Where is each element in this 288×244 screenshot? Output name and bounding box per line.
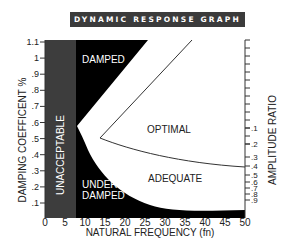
y2-axis-ticks: .1.2.3.4.5.6.7.8.9 <box>245 40 258 205</box>
y-tick-label: .3 <box>31 166 39 176</box>
y-axis-title: DAMPING COEFFICENT % <box>17 77 28 202</box>
y-tick-label: .7 <box>31 101 39 111</box>
y-tick-label: .6 <box>31 118 39 128</box>
label-damped: DAMPED <box>82 54 125 65</box>
dynamic-response-chart: .1.2.3.4.5.6.7.8.911.1 .1.2.3.4.5.6.7.8.… <box>0 0 288 244</box>
y-tick-label: 1 <box>34 53 39 63</box>
x-tick-label: 50 <box>239 217 251 228</box>
y2-tick-label: .1 <box>251 124 258 133</box>
y-tick-label: .8 <box>31 85 39 95</box>
label-unacceptable: UNACCEPTABLE <box>55 115 66 195</box>
label-damped-2: DAMPED <box>82 190 125 201</box>
label-under: UNDER- <box>82 179 121 190</box>
x-axis-title: NATURAL FREQUENCY (fn) <box>86 227 215 238</box>
y2-axis-title: AMPLITUDE RATIO <box>267 95 278 185</box>
label-adequate: ADEQUATE <box>148 173 203 184</box>
y2-tick-label: .2 <box>251 140 258 149</box>
x-tick-label: 5 <box>62 217 68 228</box>
x-tick-label: 0 <box>42 217 48 228</box>
y-tick-label: .5 <box>31 134 39 144</box>
y2-tick-label: .3 <box>251 153 258 162</box>
x-tick-label: 45 <box>219 217 231 228</box>
y2-tick-label: .9 <box>251 196 258 205</box>
y-tick-label: .1 <box>31 198 39 208</box>
y-tick-label: .4 <box>31 150 39 160</box>
y-tick-label: .2 <box>31 182 39 192</box>
y-tick-label: 1.1 <box>26 37 39 47</box>
y2-tick-label: .4 <box>251 162 258 171</box>
y-axis-ticks: .1.2.3.4.5.6.7.8.911.1 <box>26 37 45 208</box>
y-tick-label: .9 <box>31 69 39 79</box>
label-optimal: OPTIMAL <box>147 124 191 135</box>
